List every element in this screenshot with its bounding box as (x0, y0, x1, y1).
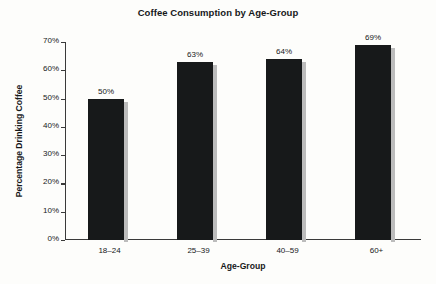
x-tick-label: 25–39 (154, 246, 243, 255)
bar-group[interactable]: 64% (243, 42, 332, 240)
bar-shadow (391, 48, 395, 242)
bar-chart: Coffee Consumption by Age-Group Percenta… (0, 0, 436, 284)
y-tick-label: 50% (43, 93, 59, 102)
bar[interactable] (266, 59, 302, 240)
x-tick-label: 18–24 (65, 246, 154, 255)
y-tick-mark (61, 240, 65, 241)
bar-shadow (124, 102, 128, 242)
bar-shadow (302, 62, 306, 242)
y-tick-label: 60% (43, 64, 59, 73)
bar[interactable] (88, 99, 124, 240)
bar-value-label: 69% (355, 33, 391, 42)
y-axis-title: Percentage Drinking Coffee (14, 85, 24, 198)
bar-group[interactable]: 50% (65, 42, 154, 240)
bar[interactable] (355, 45, 391, 240)
plot-area: 0%10%20%30%40%50%60%70% 50%63%64%69% 18–… (65, 42, 421, 240)
y-tick-label: 20% (43, 177, 59, 186)
x-axis-title: Age-Group (65, 261, 421, 271)
y-tick-label: 70% (43, 36, 59, 45)
bar-value-label: 50% (88, 87, 124, 96)
y-tick-label: 0% (47, 234, 59, 243)
bar-shadow (213, 65, 217, 242)
x-tick-label: 60+ (332, 246, 421, 255)
bar[interactable] (177, 62, 213, 240)
y-tick-label: 10% (43, 206, 59, 215)
chart-title: Coffee Consumption by Age-Group (0, 7, 436, 18)
bar-group[interactable]: 63% (154, 42, 243, 240)
y-axis-title-container: Percentage Drinking Coffee (12, 42, 26, 240)
y-tick-label: 30% (43, 149, 59, 158)
bar-group[interactable]: 69% (332, 42, 421, 240)
x-tick-label: 40–59 (243, 246, 332, 255)
bar-series: 50%63%64%69% (65, 42, 421, 240)
y-tick-label: 40% (43, 121, 59, 130)
bar-value-label: 64% (266, 47, 302, 56)
bar-value-label: 63% (177, 50, 213, 59)
